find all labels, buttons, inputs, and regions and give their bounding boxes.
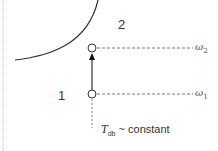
omega-1-label: ω1 bbox=[195, 88, 208, 101]
saturation-curve bbox=[15, 0, 98, 60]
omega-2-subscript: 2 bbox=[203, 47, 207, 55]
omega-1-subscript: 1 bbox=[203, 93, 207, 101]
tdb-symbol: T bbox=[101, 122, 108, 136]
region-2-label: 2 bbox=[118, 18, 125, 31]
state-1-point bbox=[88, 90, 96, 98]
omega-2-symbol: ω bbox=[195, 41, 203, 52]
region-1-label: 1 bbox=[58, 89, 65, 102]
omega-2-label: ω2 bbox=[195, 42, 208, 55]
tdb-text: ~ constant bbox=[115, 123, 169, 135]
arrow-head-icon bbox=[89, 53, 95, 60]
omega-1-symbol: ω bbox=[195, 87, 203, 98]
tdb-constant-annotation: Tdb ~ constant bbox=[101, 123, 170, 137]
state-2-point bbox=[88, 44, 96, 52]
psychrometric-diagram: 2 1 ω2 ω1 Tdb ~ constant bbox=[0, 0, 218, 151]
